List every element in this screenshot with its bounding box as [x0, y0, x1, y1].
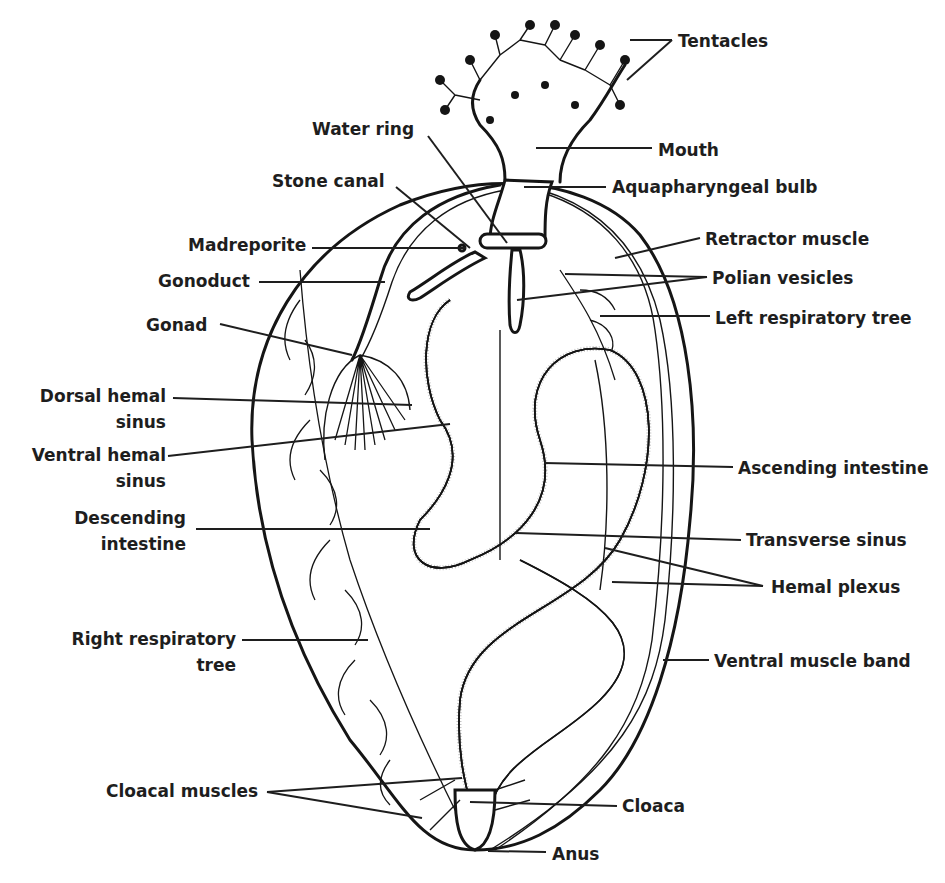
label-text: Ventral hemal	[32, 445, 166, 465]
label-right-respiratory-tree: Right respiratorytree	[72, 629, 368, 675]
tentacles-drawing	[435, 20, 630, 182]
leader-line	[267, 778, 462, 792]
label-descending-intestine: Descendingintestine	[74, 508, 430, 554]
cloaca-drawing	[455, 790, 495, 850]
leader-line	[612, 582, 763, 586]
label-text: Mouth	[658, 140, 719, 160]
label-text: Tentacles	[678, 31, 768, 51]
label-text: Ascending intestine	[738, 458, 928, 478]
label-left-respiratory-tree: Left respiratory tree	[600, 308, 911, 328]
leader-line	[565, 274, 707, 277]
label-text: tree	[196, 655, 236, 675]
body-wall	[252, 183, 694, 850]
label-text: Gonoduct	[158, 271, 250, 291]
leader-line	[428, 136, 507, 243]
label-text: Stone canal	[272, 171, 385, 191]
label-tentacles: Tentacles	[627, 31, 768, 80]
label-text: Anus	[552, 844, 599, 864]
sea-cucumber-anatomy-diagram: TentaclesMouthAquapharyngeal bulbRetract…	[0, 0, 945, 883]
left-respiratory-tree-drawing	[560, 270, 615, 380]
leader-line	[627, 40, 672, 80]
right-respiratory-tree-drawing	[285, 270, 460, 820]
label-cloacal-muscles: Cloacal muscles	[106, 778, 462, 818]
label-text: sinus	[116, 412, 166, 432]
label-text: Water ring	[312, 119, 414, 139]
label-text: sinus	[116, 471, 166, 491]
label-cloaca: Cloaca	[470, 796, 685, 816]
label-ascending-intestine: Ascending intestine	[544, 458, 928, 478]
label-text: Polian vesicles	[712, 268, 853, 288]
water-ring-drawing	[480, 234, 546, 248]
label-gonoduct: Gonoduct	[158, 271, 385, 291]
label-hemal-plexus: Hemal plexus	[605, 548, 900, 597]
label-text: Right respiratory	[72, 629, 236, 649]
label-text: Left respiratory tree	[715, 308, 911, 328]
label-polian-vesicles: Polian vesicles	[517, 268, 853, 300]
label-layer: TentaclesMouthAquapharyngeal bulbRetract…	[32, 31, 929, 864]
body-drawing	[252, 20, 694, 850]
label-text: Madreporite	[188, 235, 306, 255]
leader-line	[517, 277, 707, 300]
label-text: Retractor muscle	[705, 229, 869, 249]
gonad-drawing	[324, 355, 410, 460]
label-text: Cloaca	[622, 796, 685, 816]
label-aquapharyngeal-bulb: Aquapharyngeal bulb	[524, 177, 817, 197]
label-gonad: Gonad	[146, 315, 352, 355]
label-text: Gonad	[146, 315, 207, 335]
label-text: Transverse sinus	[746, 530, 907, 550]
label-transverse-sinus: Transverse sinus	[516, 530, 907, 550]
label-text: Ventral muscle band	[714, 651, 911, 671]
label-text: Descending	[74, 508, 186, 528]
leader-line	[516, 533, 741, 540]
leader-line	[488, 851, 546, 852]
label-text: Dorsal hemal	[40, 386, 166, 406]
leader-line	[544, 463, 733, 467]
label-text: Cloacal muscles	[106, 781, 258, 801]
polian-vesicle-drawing	[408, 252, 485, 300]
label-text: intestine	[101, 534, 186, 554]
leader-line	[168, 424, 450, 456]
label-ventral-muscle-band: Ventral muscle band	[663, 651, 911, 671]
label-text: Aquapharyngeal bulb	[612, 177, 817, 197]
label-ventral-hemal-sinus: Ventral hemalsinus	[32, 424, 450, 491]
leader-line	[173, 398, 412, 405]
label-text: Hemal plexus	[771, 577, 900, 597]
